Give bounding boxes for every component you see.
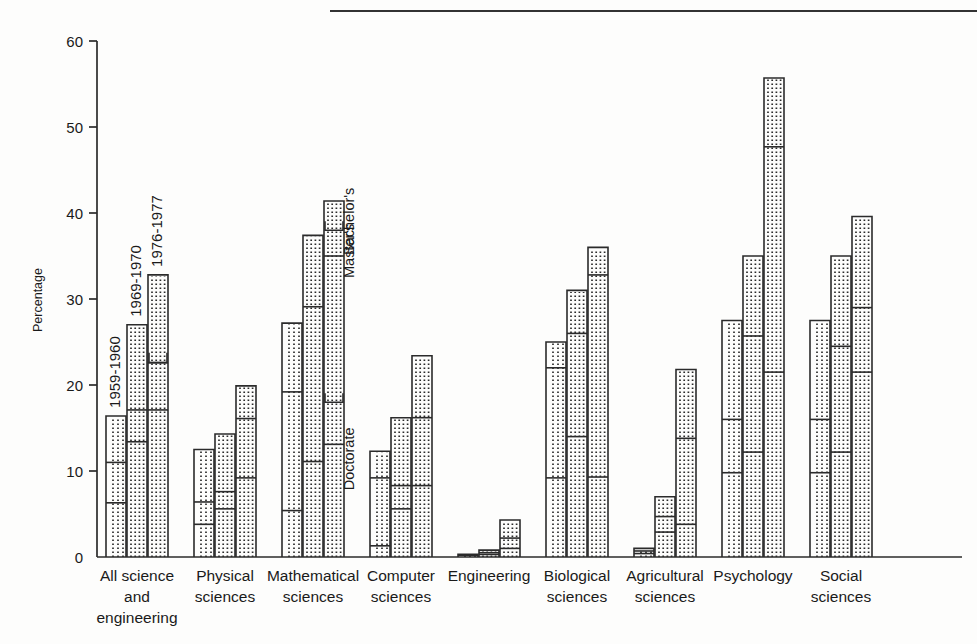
y-axis-title: Percentage bbox=[31, 268, 45, 332]
x-axis-category-label: Mathematical bbox=[267, 567, 359, 584]
x-axis-category-label: sciences bbox=[547, 588, 608, 605]
bar-8-2 bbox=[743, 256, 763, 557]
x-axis-category-label: and bbox=[124, 588, 150, 605]
bar-2-1 bbox=[194, 450, 214, 558]
x-axis-category-label: Engineering bbox=[448, 567, 531, 584]
x-axis-category-label: Psychology bbox=[713, 567, 793, 584]
x-axis-category-label: Computer bbox=[367, 567, 435, 584]
series-annotation-bracket bbox=[149, 353, 167, 363]
x-axis-category-label: sciences bbox=[283, 588, 344, 605]
x-axis-category-label: sciences bbox=[811, 588, 872, 605]
bar-1-2 bbox=[127, 325, 147, 557]
bar-3-2 bbox=[303, 235, 323, 557]
series-annotation-label: 1976-1977 bbox=[148, 195, 165, 267]
x-axis-category-label: Agricultural bbox=[626, 567, 704, 584]
bar-5-2 bbox=[479, 550, 499, 557]
bar-outline bbox=[236, 386, 256, 557]
bar-4-2 bbox=[391, 418, 411, 557]
x-axis-category-label: Physical bbox=[196, 567, 254, 584]
x-axis-category-label: All science bbox=[100, 567, 174, 584]
bar-7-2 bbox=[655, 497, 675, 557]
series-annotation-label: 1959-1960 bbox=[106, 336, 123, 408]
bar-1-1 bbox=[106, 416, 126, 557]
bar-2-3 bbox=[236, 386, 256, 557]
bar-3-1 bbox=[282, 323, 302, 557]
bar-5-3 bbox=[500, 520, 520, 557]
bar-8-1 bbox=[722, 321, 742, 558]
y-axis-tick-label: 60 bbox=[66, 33, 83, 50]
bar-outline bbox=[588, 247, 608, 557]
chart-plot-area: 0102030405060PercentageAll scienceandeng… bbox=[0, 0, 977, 644]
bar-6-3 bbox=[588, 247, 608, 557]
bar-outline bbox=[852, 216, 872, 557]
x-axis-category-label: sciences bbox=[371, 588, 432, 605]
y-axis-tick-label: 40 bbox=[66, 205, 83, 222]
degree-level-annotation-label: Doctorate bbox=[341, 427, 357, 490]
x-axis-category-label: Social bbox=[820, 567, 862, 584]
y-axis-tick-label: 30 bbox=[66, 291, 83, 308]
bar-4-1 bbox=[370, 451, 390, 557]
bar-outline bbox=[764, 78, 784, 557]
degree-level-annotation-label: Master's bbox=[341, 224, 357, 278]
chart-page: 0102030405060PercentageAll scienceandeng… bbox=[0, 0, 977, 644]
bar-9-3 bbox=[852, 216, 872, 557]
bar-7-1 bbox=[634, 548, 654, 557]
y-axis-tick-label: 0 bbox=[75, 549, 83, 566]
y-axis-tick-label: 20 bbox=[66, 377, 83, 394]
x-axis-category-label: engineering bbox=[96, 609, 177, 626]
bar-2-2 bbox=[215, 434, 235, 557]
y-axis-tick-label: 50 bbox=[66, 119, 83, 136]
x-axis-category-label: sciences bbox=[635, 588, 696, 605]
bar-7-3 bbox=[676, 370, 696, 557]
bar-4-3 bbox=[412, 356, 432, 557]
chart-svg: 0102030405060PercentageAll scienceandeng… bbox=[0, 0, 977, 644]
x-axis-category-label: Biological bbox=[544, 567, 610, 584]
y-axis-tick-label: 10 bbox=[66, 463, 83, 480]
bar-8-3 bbox=[764, 78, 784, 557]
bar-6-1 bbox=[546, 342, 566, 557]
bar-1-3 bbox=[148, 275, 168, 557]
bar-6-2 bbox=[567, 290, 587, 557]
bar-9-2 bbox=[831, 256, 851, 557]
x-axis-category-label: sciences bbox=[195, 588, 256, 605]
series-annotation-label: 1969-1970 bbox=[127, 245, 144, 317]
bar-9-1 bbox=[810, 321, 830, 558]
